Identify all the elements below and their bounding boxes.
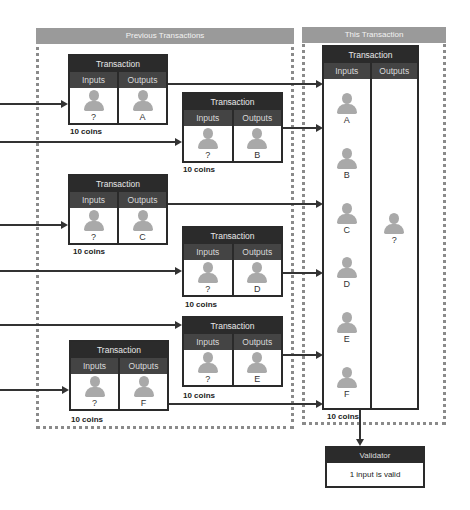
person-icon (132, 210, 154, 232)
output-owner: C (139, 232, 146, 242)
inputs-label: Inputs (184, 244, 234, 260)
input-d: D (324, 257, 370, 289)
output-owner: ? (392, 235, 397, 245)
output-cell: D (234, 260, 282, 295)
outputs-label: Outputs (234, 334, 282, 350)
input-e: E (324, 312, 370, 344)
incoming-line-f (0, 389, 62, 391)
previous-transaction-d: Transaction InputsOutputs ? D (182, 226, 283, 297)
this-transaction-box: Transaction InputsOutputs A B C D E (322, 45, 419, 410)
input-cell: ? (71, 374, 120, 409)
person-icon (336, 148, 358, 170)
connector-b (282, 127, 316, 129)
arrow-head (61, 221, 68, 229)
connector-e (282, 354, 316, 356)
amount-label: 10 coins (183, 165, 215, 174)
person-icon (246, 128, 268, 150)
incoming-line-a (0, 103, 61, 105)
outputs-label: Outputs (120, 358, 167, 374)
input-owner: ? (91, 112, 96, 122)
connector-c (167, 203, 316, 205)
output-owner: B (254, 150, 260, 160)
outputs-label: Outputs (119, 192, 166, 208)
input-owner: ? (205, 284, 210, 294)
outputs-label: Outputs (119, 72, 166, 88)
connector-d (282, 272, 316, 274)
inputs-column: A B C D E F (324, 79, 372, 408)
incoming-line-d (0, 270, 175, 272)
output-cell: F (120, 374, 167, 409)
transaction-title: Transaction (184, 318, 281, 334)
outputs-label: Outputs (234, 244, 282, 260)
inputs-label: Inputs (184, 334, 234, 350)
previous-transaction-f: Transaction InputsOutputs ? F (69, 340, 169, 411)
amount-label: 10 coins (71, 415, 103, 424)
transaction-title: Transaction (71, 342, 167, 358)
input-owner: ? (205, 150, 210, 160)
transaction-title: Transaction (70, 56, 166, 72)
person-icon (83, 210, 105, 232)
output-cell: C (119, 208, 166, 243)
outputs-label: Outputs (372, 63, 418, 79)
outputs-label: Outputs (234, 110, 282, 126)
output-owner: E (254, 374, 260, 384)
validator-result: 1 input is valid (327, 463, 423, 487)
input-a: A (324, 93, 370, 125)
outputs-column: ? (372, 79, 418, 408)
inputs-label: Inputs (324, 63, 372, 79)
transaction-title: Transaction (184, 228, 281, 244)
person-icon (336, 203, 358, 225)
validator-title: Validator (327, 448, 423, 463)
amount-label: 10 coins (327, 412, 359, 421)
inputs-label: Inputs (70, 72, 119, 88)
arrow-head (61, 100, 68, 108)
input-owner: B (344, 170, 350, 180)
incoming-line-c (0, 224, 61, 226)
output-unknown: ? (372, 213, 418, 245)
output-cell: E (234, 350, 282, 385)
input-owner: D (344, 279, 351, 289)
person-icon (197, 352, 219, 374)
input-cell: ? (70, 208, 119, 243)
input-owner: ? (92, 398, 97, 408)
input-f: F (324, 367, 370, 399)
input-b: B (324, 148, 370, 180)
input-owner: F (344, 389, 350, 399)
person-icon (84, 376, 106, 398)
person-icon (336, 93, 358, 115)
person-icon (83, 90, 105, 112)
input-owner: C (344, 225, 351, 235)
person-icon (383, 213, 405, 235)
input-cell: ? (184, 126, 234, 161)
person-icon (246, 262, 268, 284)
amount-label: 10 coins (73, 247, 105, 256)
incoming-line-e (0, 324, 175, 326)
amount-label: 10 coins (185, 300, 217, 309)
person-icon (132, 90, 154, 112)
input-cell: ? (184, 350, 234, 385)
transaction-title: Transaction (184, 94, 281, 110)
connector-a (167, 83, 316, 85)
inputs-label: Inputs (184, 110, 234, 126)
arrow-head (62, 386, 69, 394)
incoming-line-b (0, 141, 175, 143)
arrow-head (175, 138, 182, 146)
inputs-label: Inputs (71, 358, 120, 374)
input-c: C (324, 203, 370, 235)
transaction-title: Transaction (70, 176, 166, 192)
amount-label: 10 coins (183, 391, 215, 400)
input-owner: ? (91, 232, 96, 242)
previous-transaction-e: Transaction InputsOutputs ? E (182, 316, 283, 387)
person-icon (133, 376, 155, 398)
person-icon (336, 312, 358, 334)
input-owner: ? (205, 374, 210, 384)
previous-transactions-header: Previous Transactions (36, 28, 294, 44)
person-icon (197, 128, 219, 150)
arrow-head (175, 267, 182, 275)
input-owner: E (344, 334, 350, 344)
output-owner: F (141, 398, 147, 408)
input-cell: ? (184, 260, 234, 295)
person-icon (197, 262, 219, 284)
previous-transaction-b: Transaction InputsOutputs ? B (182, 92, 283, 163)
input-cell: ? (70, 88, 119, 123)
